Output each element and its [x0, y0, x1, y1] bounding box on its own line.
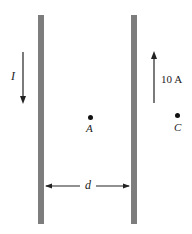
point-c-label: C [174, 122, 181, 133]
point-c-marker [175, 113, 180, 118]
left-current-label: I [11, 70, 15, 82]
separation-label: d [85, 179, 91, 191]
point-a-marker [88, 115, 93, 120]
arrows-layer [0, 0, 192, 234]
right-current-arrow-icon [151, 51, 157, 103]
left-current-arrow-icon [20, 52, 26, 104]
point-a-label: A [86, 123, 93, 134]
right-current-label: 10 A [161, 74, 182, 85]
